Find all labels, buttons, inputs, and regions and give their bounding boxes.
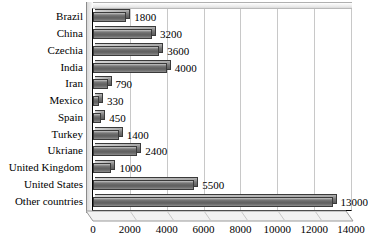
bar-spain (93, 113, 101, 123)
bar-top-bevel (95, 26, 154, 29)
x-tick-4000: 4000 (156, 224, 178, 235)
bar-series: 1800320036004000790330450140024001000550… (93, 9, 351, 210)
x-tick-14000: 14000 (337, 224, 365, 235)
bar-top-bevel (95, 127, 121, 130)
category-label-india: India (60, 61, 83, 72)
bar-row: 3200 (93, 29, 351, 39)
bar-end-cap (126, 9, 130, 19)
bar-top-bevel (95, 9, 128, 12)
bar-top-bevel (95, 194, 335, 197)
bar-top-bevel (95, 43, 161, 46)
chart-3d-base-plate (86, 209, 354, 223)
bar-end-cap (333, 194, 337, 204)
category-label-iran: Iran (65, 78, 83, 89)
bar-czechia (93, 46, 159, 56)
bar-china (93, 29, 152, 39)
bar-brazil (93, 12, 126, 22)
bar-row: 1400 (93, 130, 351, 140)
bar-value-label: 330 (107, 96, 124, 107)
bar-value-label: 5500 (202, 179, 224, 190)
bar-end-cap (119, 127, 123, 137)
bar-other-countries (93, 197, 333, 207)
x-tick-0: 0 (90, 224, 96, 235)
bar-end-cap (194, 177, 198, 187)
x-tick-6000: 6000 (193, 224, 215, 235)
bar-united-states (93, 180, 194, 190)
bar-india (93, 63, 167, 73)
bar-row: 13000 (93, 197, 351, 207)
gridline-14000 (351, 9, 352, 210)
x-tick-12000: 12000 (300, 224, 328, 235)
bar-row: 790 (93, 79, 351, 89)
bar-row: 1800 (93, 12, 351, 22)
bar-end-cap (108, 76, 112, 86)
bar-value-label: 2400 (145, 146, 167, 157)
bar-ukriane (93, 146, 137, 156)
category-label-united-states: United States (24, 178, 83, 189)
bar-end-cap (111, 160, 115, 170)
bar-end-cap (159, 43, 163, 53)
bar-row: 1000 (93, 163, 351, 173)
bar-end-cap (99, 93, 103, 103)
bar-row: 3600 (93, 46, 351, 56)
category-label-ukriane: Ukriane (48, 145, 83, 156)
category-label-china: China (57, 28, 83, 39)
bar-value-label: 3600 (167, 45, 189, 56)
bar-value-label: 3200 (160, 29, 182, 40)
bar-top-bevel (95, 177, 196, 180)
x-tick-8000: 8000 (229, 224, 251, 235)
plot-area: 1800320036004000790330450140024001000550… (92, 8, 352, 211)
bar-end-cap (152, 26, 156, 36)
bar-row: 330 (93, 96, 351, 106)
bar-turkey (93, 130, 119, 140)
bar-end-cap (101, 110, 105, 120)
bar-value-label: 4000 (175, 62, 197, 73)
bar-row: 2400 (93, 146, 351, 156)
x-axis-tick-labels: 02000400060008000100001200014000 (0, 224, 360, 240)
bar-value-label: 1000 (119, 163, 141, 174)
bar-value-label: 790 (116, 79, 133, 90)
bar-end-cap (167, 60, 171, 70)
category-label-czechia: Czechia (48, 44, 83, 55)
bar-top-bevel (95, 143, 139, 146)
bar-end-cap (137, 143, 141, 153)
bar-iran (93, 79, 108, 89)
category-label-mexico: Mexico (49, 95, 83, 106)
bar-value-label: 1400 (127, 129, 149, 140)
category-label-brazil: Brazil (56, 11, 83, 22)
bar-value-label: 450 (109, 112, 126, 123)
x-tick-2000: 2000 (119, 224, 141, 235)
bar-value-label: 1800 (134, 12, 156, 23)
category-label-turkey: Turkey (52, 128, 83, 139)
bar-united-kingdom (93, 163, 111, 173)
category-label-other-countries: Other countries (15, 195, 83, 206)
bar-top-bevel (95, 60, 169, 63)
category-label-spain: Spain (58, 111, 83, 122)
category-label-united-kingdom: United Kingdom (9, 162, 83, 173)
bar-row: 5500 (93, 180, 351, 190)
bar-row: 450 (93, 113, 351, 123)
category-axis-labels: BrazilChinaCzechiaIndiaIranMexicoSpainTu… (0, 8, 88, 211)
bar-row: 4000 (93, 63, 351, 73)
x-tick-10000: 10000 (264, 224, 292, 235)
bar-value-label: 13000 (341, 196, 368, 207)
